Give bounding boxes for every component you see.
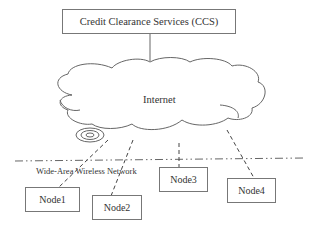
internet-label: Internet bbox=[143, 94, 176, 105]
ccs-box: Credit Clearance Services (CCS) bbox=[62, 9, 236, 34]
node4-link bbox=[227, 130, 254, 178]
node3-box: Node3 bbox=[159, 167, 208, 192]
node4-label: Node4 bbox=[238, 185, 265, 196]
node3-label: Node3 bbox=[170, 174, 197, 185]
node2-box: Node2 bbox=[92, 195, 142, 220]
cloud-detail-arc bbox=[220, 105, 238, 118]
node1-label: Node1 bbox=[39, 194, 66, 205]
node1-link bbox=[58, 140, 108, 188]
wireless-network-boundary bbox=[15, 158, 305, 161]
node2-label: Node2 bbox=[104, 202, 131, 213]
node1-box: Node1 bbox=[25, 187, 80, 212]
network-label: Wide-Area Wireless Network bbox=[36, 166, 137, 176]
ccs-label: Credit Clearance Services (CCS) bbox=[80, 16, 219, 27]
cloud-detail-arc bbox=[60, 100, 80, 111]
node4-box: Node4 bbox=[227, 178, 276, 203]
